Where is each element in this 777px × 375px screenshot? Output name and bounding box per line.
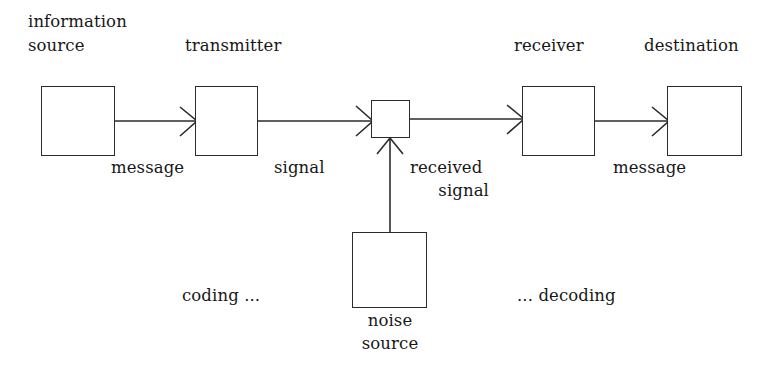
edge-noise-to-channel (377, 137, 403, 232)
label-signal: signal (274, 157, 325, 178)
label-information-source-line2: source (28, 35, 85, 56)
annotation-coding: coding ... (182, 285, 260, 306)
node-box-information-source[interactable] (41, 86, 115, 156)
edge-transmitter-to-channel (258, 106, 373, 136)
label-destination: destination (644, 35, 739, 56)
label-received-signal-line1: received (410, 157, 482, 178)
label-noise-source-line1: noise (350, 310, 430, 331)
annotation-decoding: ... decoding (517, 285, 616, 306)
shannon-weaver-diagram: information source transmitter receiver … (0, 0, 777, 375)
label-message-left: message (111, 157, 184, 178)
node-box-receiver[interactable] (522, 86, 595, 156)
edge-source-to-transmitter (115, 107, 197, 136)
label-transmitter: transmitter (185, 35, 281, 56)
label-information-source-line1: information (28, 11, 127, 32)
node-box-destination[interactable] (667, 86, 742, 156)
node-box-transmitter[interactable] (195, 86, 258, 156)
edge-channel-to-receiver (410, 105, 524, 134)
label-received-signal-line2: signal (410, 180, 489, 201)
edge-receiver-to-destination (595, 107, 669, 136)
node-box-noise-source[interactable] (352, 232, 427, 308)
node-box-channel[interactable] (371, 100, 410, 138)
label-message-right: message (613, 157, 686, 178)
label-noise-source-line2: source (350, 333, 430, 354)
label-receiver: receiver (514, 35, 584, 56)
